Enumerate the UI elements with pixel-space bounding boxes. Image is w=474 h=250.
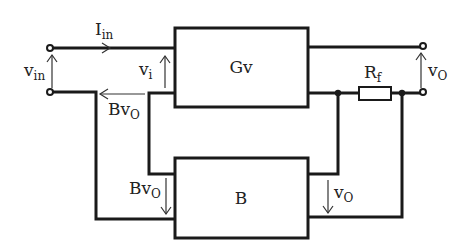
right-loop-inner [308,93,338,174]
vin-label: vin [23,60,45,83]
vo-b-input-label: vO [333,182,354,205]
circuit-diagram: Gv B Iin vin vi BvO BvO Rf vO vO [0,0,474,250]
resistor-rf [359,87,391,100]
bvo-bottom-label: BvO [129,178,161,201]
output-terminal-top [420,43,426,49]
inner-feedback-loop [149,93,175,174]
bvo-top-label: BvO [108,99,140,122]
iin-label: Iin [95,19,114,42]
junction-dot-left [335,90,341,96]
output-terminal-bottom [420,89,426,95]
vi-label: vi [138,59,153,82]
rf-label: Rf [364,62,383,85]
junction-dot-right [399,90,405,96]
vo-output-label: vO [427,60,448,83]
right-loop-outer [308,93,402,217]
input-terminal-top [47,45,53,51]
b-block-label: B [235,188,248,208]
gv-block-label: Gv [229,57,253,77]
input-terminal-bottom [47,89,53,95]
